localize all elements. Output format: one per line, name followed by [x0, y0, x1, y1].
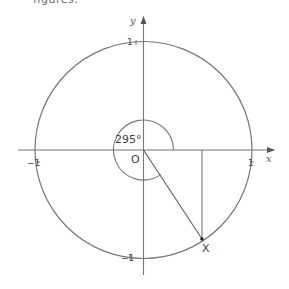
x-axis-label: x — [266, 153, 272, 164]
origin-label: O — [131, 153, 140, 166]
angle-label: 295° — [115, 133, 142, 146]
radius-line — [144, 150, 203, 239]
y-axis-label: y — [129, 15, 136, 26]
unit-circle-diagram: y x 1 −1 −1 1 295° O X — [0, 0, 289, 289]
tick-label-top: 1 — [127, 37, 133, 47]
point-x-dot — [200, 237, 204, 241]
tick-label-right: 1 — [248, 158, 254, 168]
point-label: X — [202, 242, 210, 255]
tick-label-left: −1 — [27, 158, 40, 168]
tick-label-bottom: −1 — [121, 253, 134, 263]
